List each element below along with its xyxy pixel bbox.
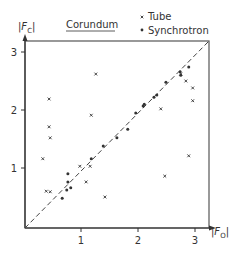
tube-point (89, 165, 92, 168)
tube-point (104, 196, 107, 199)
tube-point (49, 136, 52, 139)
synchrotron-point (90, 157, 93, 160)
y-axis-label: |FC| (18, 21, 35, 35)
y-tick-3: 3 (11, 47, 17, 58)
synchrotron-point (61, 197, 64, 200)
tube-point (48, 125, 51, 128)
synchrotron-point (69, 186, 72, 189)
tube-point (41, 157, 44, 160)
legend-synchrotron-label: Synchrotron (148, 25, 209, 36)
x-axis-label: |FO| (211, 226, 229, 240)
synchrotron-point (102, 144, 105, 147)
chart-title: Corundum (66, 19, 118, 30)
tube-point (163, 175, 166, 178)
y-ticks: 1 2 3 (11, 47, 25, 174)
x-tick-1: 1 (78, 235, 84, 246)
synchrotron-point (126, 128, 129, 131)
tube-point (191, 87, 194, 90)
synchrotron-point (155, 93, 158, 96)
tube-point (184, 80, 187, 83)
tube-point (45, 190, 48, 193)
synchrotron-point (115, 136, 118, 139)
tube-point (90, 114, 93, 117)
tube-point (187, 154, 190, 157)
tube-point (94, 73, 97, 76)
tube-point (85, 181, 88, 184)
synchrotron-point (164, 81, 167, 84)
tube-point (49, 190, 52, 193)
scatter-chart: 1 2 3 1 2 3 |FC| |FO| Corundum Tube Sync… (0, 0, 239, 254)
x-ticks: 1 2 3 (78, 228, 198, 246)
tube-point (78, 165, 81, 168)
legend-tube-label: Tube (147, 11, 171, 22)
y-axis-arrow-icon (23, 34, 28, 41)
synchrotron-point (65, 189, 68, 192)
identity-line (25, 41, 209, 228)
legend: Tube Synchrotron (141, 11, 209, 36)
synchrotron-point (187, 66, 190, 69)
y-tick-1: 1 (11, 163, 17, 174)
synchrotron-point (66, 172, 69, 175)
synchrotron-point (179, 74, 182, 77)
legend-synchrotron-marker-icon (141, 29, 144, 32)
synchrotron-point (66, 180, 69, 183)
tube-point (159, 107, 162, 110)
x-tick-2: 2 (135, 235, 141, 246)
tube-point (191, 99, 194, 102)
synchrotron-point (152, 96, 155, 99)
synchrotron-point (179, 70, 182, 73)
x-tick-3: 3 (192, 235, 198, 246)
y-tick-2: 2 (11, 105, 17, 116)
synchrotron-point (142, 104, 145, 107)
legend-tube-marker-icon (141, 16, 144, 19)
data-points (41, 66, 194, 200)
tube-point (48, 98, 51, 101)
synchrotron-point (134, 111, 137, 114)
